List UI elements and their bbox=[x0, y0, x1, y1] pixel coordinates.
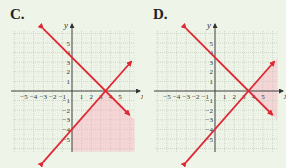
svg-text:1: 1 bbox=[210, 78, 214, 86]
panel-label-d: D. bbox=[153, 6, 168, 23]
svg-text:−1: −1 bbox=[63, 97, 71, 105]
line-2 bbox=[186, 61, 274, 162]
svg-text:−5: −5 bbox=[20, 93, 28, 101]
svg-text:−1: −1 bbox=[206, 97, 214, 105]
svg-text:2: 2 bbox=[210, 68, 214, 76]
graph-c: xy−5−4−3−2−11234554321−1−2−3−4−5 bbox=[0, 0, 143, 168]
svg-text:−4: −4 bbox=[173, 93, 181, 101]
svg-text:1: 1 bbox=[80, 93, 84, 101]
line-1 bbox=[43, 29, 129, 115]
svg-text:−2: −2 bbox=[206, 107, 214, 115]
svg-text:−3: −3 bbox=[39, 93, 47, 101]
svg-text:2: 2 bbox=[67, 68, 71, 76]
graph-d: xy−5−4−3−2−11234554321−1−2−3−4−5 bbox=[143, 0, 286, 168]
y-axis-label: y bbox=[206, 20, 211, 30]
svg-text:5: 5 bbox=[261, 93, 265, 101]
svg-text:5: 5 bbox=[67, 40, 71, 48]
panel-label-c: C. bbox=[10, 6, 25, 23]
x-tick-labels: −5−4−3−2−112345 bbox=[163, 93, 265, 101]
svg-text:2: 2 bbox=[89, 93, 93, 101]
svg-text:−4: −4 bbox=[30, 93, 38, 101]
svg-text:1: 1 bbox=[67, 78, 71, 86]
svg-text:−5: −5 bbox=[163, 93, 171, 101]
svg-text:−2: −2 bbox=[63, 107, 71, 115]
svg-text:−2: −2 bbox=[49, 93, 57, 101]
svg-text:5: 5 bbox=[210, 40, 214, 48]
svg-text:5: 5 bbox=[118, 93, 122, 101]
x-axis-label: x bbox=[283, 91, 286, 101]
svg-text:3: 3 bbox=[210, 59, 214, 67]
graph-panel-c: xy−5−4−3−2−11234554321−1−2−3−4−5 C. bbox=[0, 0, 143, 168]
svg-text:−2: −2 bbox=[192, 93, 200, 101]
svg-text:2: 2 bbox=[232, 93, 236, 101]
svg-text:1: 1 bbox=[223, 93, 227, 101]
svg-text:−3: −3 bbox=[206, 116, 214, 124]
svg-text:3: 3 bbox=[67, 59, 71, 67]
svg-text:−3: −3 bbox=[63, 116, 71, 124]
y-axis-label: y bbox=[63, 20, 68, 30]
line-1 bbox=[186, 29, 272, 115]
graph-panel-d: xy−5−4−3−2−11234554321−1−2−3−4−5 D. bbox=[143, 0, 286, 168]
svg-text:−3: −3 bbox=[182, 93, 190, 101]
